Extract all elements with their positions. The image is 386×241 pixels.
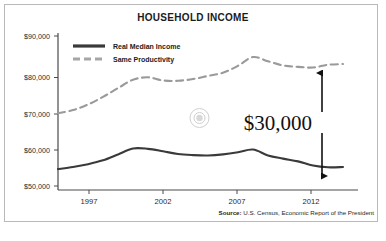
y-tick-label-60000: $60,000 bbox=[24, 146, 50, 155]
source-note: Source: U.S. Census, Economic Report of … bbox=[219, 209, 374, 216]
source-note-text: U.S. Census, Economic Report of the Pres… bbox=[242, 209, 374, 216]
target-watermark-icon bbox=[190, 109, 209, 128]
chart-plot-area: $90,000 $80,000 $70,000 $60,000 $50,000 … bbox=[0, 0, 386, 241]
source-note-prefix: Source: bbox=[219, 209, 242, 216]
y-tick-label-70000: $70,000 bbox=[24, 110, 50, 119]
legend-label-real-median-income: Real Median Income bbox=[113, 43, 180, 50]
x-tick-label-1997: 1997 bbox=[81, 197, 98, 206]
x-tick-label-2007: 2007 bbox=[229, 197, 246, 206]
legend-label-same-productivity: Same Productivity bbox=[113, 56, 174, 64]
y-tick-label-90000: $90,000 bbox=[24, 32, 50, 41]
chart-legend: Real Median Income Same Productivity bbox=[73, 43, 180, 64]
x-tick-label-2012: 2012 bbox=[303, 197, 320, 206]
series-line-real-median-income bbox=[58, 148, 343, 169]
x-tick-label-2002: 2002 bbox=[155, 197, 172, 206]
y-tick-label-50000: $50,000 bbox=[24, 182, 50, 191]
series-line-same-productivity bbox=[58, 57, 343, 113]
household-income-chart: HOUSEHOLD INCOME $90,000 $80,000 $70,000… bbox=[0, 0, 386, 241]
y-tick-label-80000: $80,000 bbox=[24, 73, 50, 82]
x-axis-ticks bbox=[89, 190, 311, 194]
annotation-label-30000: $30,000 bbox=[244, 111, 312, 135]
